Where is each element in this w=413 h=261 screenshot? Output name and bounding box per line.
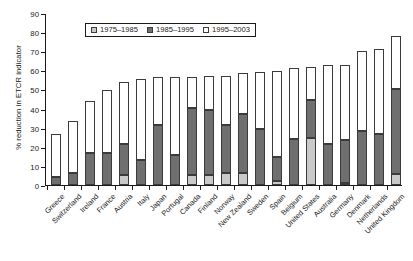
bar-segment-1975-1985 (272, 181, 282, 185)
x-axis-tick (285, 186, 286, 190)
bar[interactable] (272, 71, 282, 185)
bar-segment-1975-1985 (306, 138, 316, 185)
legend-swatch-icon (147, 27, 153, 33)
bar-segment-1985-1995 (102, 153, 112, 185)
bar-segment-1995-2003 (374, 49, 384, 134)
bar-segment-1985-1995 (374, 134, 384, 185)
chart-container: % reduction in ETCR indicator 0102030405… (0, 0, 413, 261)
bar-segment-1975-1985 (238, 173, 248, 185)
bar-segment-1995-2003 (187, 77, 197, 108)
legend-item[interactable]: 1995–2003 (203, 26, 250, 34)
bar-segment-1995-2003 (51, 134, 61, 177)
y-axis-tick (41, 33, 45, 34)
y-axis-tick-label: 10 (30, 162, 39, 171)
x-axis-tick (387, 186, 388, 190)
bar[interactable] (119, 82, 129, 185)
x-axis-tick (115, 186, 116, 190)
bar[interactable] (187, 77, 197, 185)
bar-segment-1985-1995 (340, 140, 350, 183)
bar-segment-1985-1995 (306, 100, 316, 137)
bar[interactable] (221, 76, 231, 185)
legend-label: 1975–1985 (100, 26, 138, 34)
y-axis-tick (41, 186, 45, 187)
bar-segment-1985-1995 (289, 139, 299, 185)
x-axis-tick (64, 186, 65, 190)
x-axis-tick (268, 186, 269, 190)
bar[interactable] (102, 90, 112, 185)
bar-segment-1995-2003 (204, 76, 214, 109)
y-axis-tick (41, 167, 45, 168)
bar-segment-1995-2003 (340, 65, 350, 139)
y-axis-tick-label: 20 (30, 143, 39, 152)
legend-label: 1985–1995 (156, 26, 194, 34)
bar-segment-1995-2003 (289, 68, 299, 139)
x-axis-tick (302, 186, 303, 190)
y-axis-tick (41, 148, 45, 149)
legend-item[interactable]: 1985–1995 (147, 26, 194, 34)
x-axis-tick (47, 186, 48, 190)
bar-segment-1995-2003 (357, 51, 367, 131)
legend-swatch-icon (91, 27, 97, 33)
bar[interactable] (357, 51, 367, 185)
bar[interactable] (255, 72, 265, 185)
x-axis-tick (183, 186, 184, 190)
y-axis-tick-label: 0 (35, 182, 39, 191)
bar[interactable] (51, 134, 61, 185)
x-axis-tick (166, 186, 167, 190)
y-axis-tick-label: 80 (30, 29, 39, 38)
y-axis-tick (41, 129, 45, 130)
bar-segment-1975-1985 (391, 174, 401, 185)
bar-segment-1985-1995 (238, 114, 248, 174)
legend-swatch-icon (203, 27, 209, 33)
bar-segment-1985-1995 (85, 153, 95, 185)
bar-segment-1995-2003 (170, 77, 180, 155)
bar-segment-1975-1985 (204, 175, 214, 185)
bar-segment-1995-2003 (68, 121, 78, 173)
bar-segment-1985-1995 (153, 125, 163, 185)
y-axis-tick-label: 60 (30, 67, 39, 76)
bar-segment-1995-2003 (102, 90, 112, 152)
y-axis-tick (41, 90, 45, 91)
bar[interactable] (68, 121, 78, 185)
bar[interactable] (391, 36, 401, 185)
legend-item[interactable]: 1975–1985 (91, 26, 138, 34)
x-axis-tick (251, 186, 252, 190)
y-axis-tick (41, 110, 45, 111)
x-axis-tick (132, 186, 133, 190)
x-axis-tick (217, 186, 218, 190)
y-axis-line (45, 14, 46, 186)
y-axis-tick-label: 50 (30, 86, 39, 95)
bar-segment-1985-1995 (221, 125, 231, 173)
x-axis-tick (98, 186, 99, 190)
bar-segment-1995-2003 (255, 72, 265, 128)
x-axis-tick (149, 186, 150, 190)
bar[interactable] (323, 65, 333, 185)
bar-segment-1995-2003 (272, 71, 282, 157)
bar-segment-1995-2003 (306, 67, 316, 100)
x-axis-tick (353, 186, 354, 190)
bar-segment-1985-1995 (391, 89, 401, 174)
bar[interactable] (85, 101, 95, 185)
chart-legend: 1975–19851985–19951995–2003 (85, 23, 256, 37)
bar-segment-1995-2003 (119, 82, 129, 144)
bar-segment-1985-1995 (119, 144, 129, 175)
bar-segment-1995-2003 (153, 77, 163, 126)
bar-segment-1995-2003 (238, 73, 248, 113)
x-axis-tick (234, 186, 235, 190)
y-axis-tick (41, 14, 45, 15)
bar[interactable] (153, 77, 163, 185)
y-axis-tick-label: 70 (30, 48, 39, 57)
y-axis-title: % reduction in ETCR indicator (14, 18, 23, 178)
bar[interactable] (170, 77, 180, 185)
bar[interactable] (238, 73, 248, 185)
bar-segment-1985-1995 (68, 173, 78, 185)
bar[interactable] (340, 65, 350, 185)
bar[interactable] (136, 79, 146, 185)
bar-segment-1975-1985 (340, 183, 350, 185)
bar[interactable] (204, 76, 214, 185)
bar[interactable] (374, 49, 384, 185)
bar[interactable] (289, 68, 299, 185)
x-axis-tick (319, 186, 320, 190)
bar[interactable] (306, 67, 316, 185)
bar-segment-1985-1995 (187, 108, 197, 175)
